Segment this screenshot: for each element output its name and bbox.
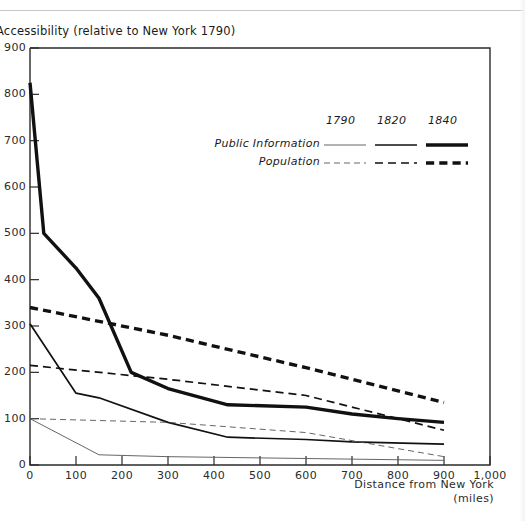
y-tick-label: 800 [0,87,26,100]
y-tick-label: 600 [0,180,26,193]
legend-year-1820: 1820 [377,114,406,127]
series-line [30,419,444,461]
y-tick-label: 500 [0,226,26,239]
y-tick-label: 900 [0,41,26,54]
chart-figure: Accessibility (relative to New York 1790… [0,0,525,521]
y-tick-label: 100 [0,412,26,425]
series-line [30,324,444,444]
legend-year-1790: 1790 [326,114,355,127]
y-tick-label: 300 [0,319,26,332]
legend-label-public-information: Public Information [190,137,320,150]
line-chart-plot [0,0,525,521]
y-tick-label: 400 [0,273,26,286]
legend-label-population: Population [190,155,320,168]
series-line [30,83,444,423]
x-axis-caption-line2: (miles) [300,492,494,505]
plot-frame [30,48,490,465]
legend-sample-lines [324,145,468,163]
y-tick-label: 0 [0,458,26,471]
axes-frame [30,48,490,465]
y-tick-label: 200 [0,365,26,378]
x-axis-caption-line1: Distance from New York [300,478,494,491]
y-tick-label: 700 [0,134,26,147]
legend-year-1840: 1840 [428,114,457,127]
